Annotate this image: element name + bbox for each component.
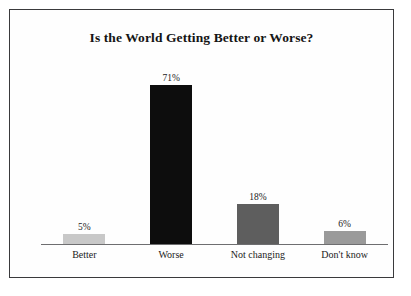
- tick-label-worse: Worse: [128, 249, 215, 261]
- chart-title: Is the World Getting Better or Worse?: [10, 30, 393, 46]
- bar-slot-dont-know: 6%: [301, 65, 388, 245]
- bar-value-label-dont-know: 6%: [338, 220, 351, 230]
- bar-group: 5% 71% 18% 6%: [41, 65, 388, 245]
- tick-label-not-changing: Not changing: [215, 249, 302, 261]
- bar-worse: [150, 85, 192, 245]
- chart-figure: Is the World Getting Better or Worse? 5%…: [0, 0, 411, 296]
- chart-frame: Is the World Getting Better or Worse? 5%…: [9, 9, 394, 278]
- x-axis-line: [41, 244, 388, 245]
- bar-value-label-not-changing: 18%: [249, 193, 266, 203]
- bar-slot-worse: 71%: [128, 65, 215, 245]
- bar-slot-better: 5%: [41, 65, 128, 245]
- bar-dont-know: [324, 231, 366, 245]
- bar-not-changing: [237, 204, 279, 245]
- tick-label-dont-know: Don't know: [301, 249, 388, 261]
- bar-value-label-better: 5%: [78, 223, 91, 233]
- plot-area: 5% 71% 18% 6%: [41, 65, 388, 245]
- bar-slot-not-changing: 18%: [215, 65, 302, 245]
- tick-label-better: Better: [41, 249, 128, 261]
- x-axis-tick-labels: Better Worse Not changing Don't know: [41, 249, 388, 261]
- bar-value-label-worse: 71%: [162, 74, 179, 84]
